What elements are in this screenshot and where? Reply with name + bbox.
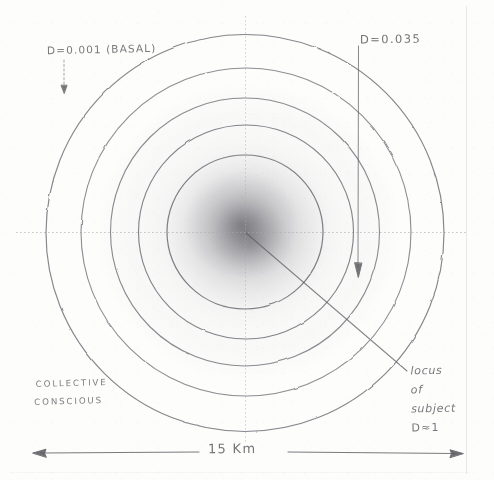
collective-line-2: CONSCIOUS xyxy=(34,395,108,409)
annotation-collective-conscious: COLLECTIVE CONSCIOUS xyxy=(36,377,109,408)
annotation-mid-label: D=0.035 xyxy=(360,32,421,48)
collective-line-1: COLLECTIVE xyxy=(36,377,108,389)
field-shading-smudge xyxy=(96,82,400,382)
locus-line-1: locus xyxy=(410,364,455,380)
locus-line-4: D≈1 xyxy=(411,420,456,436)
annotation-basal-label: D=0.001 (BASAL) xyxy=(47,41,157,57)
locus-line-3: subject xyxy=(411,401,456,417)
locus-line-2: of xyxy=(411,382,456,398)
paper-sheet: D=0.001 (BASAL) D=0.035 COLLECTIVE CONSC… xyxy=(0,0,494,480)
annotation-locus-of-subject: locus of subject D≈1 xyxy=(410,364,456,440)
scale-arrow-left xyxy=(33,449,46,457)
annotation-scale-label: 15 Km xyxy=(208,440,257,458)
basal-arrow xyxy=(61,60,67,94)
scale-arrow-right xyxy=(450,450,463,458)
figure-canvas: D=0.001 (BASAL) D=0.035 COLLECTIVE CONSC… xyxy=(0,0,494,480)
